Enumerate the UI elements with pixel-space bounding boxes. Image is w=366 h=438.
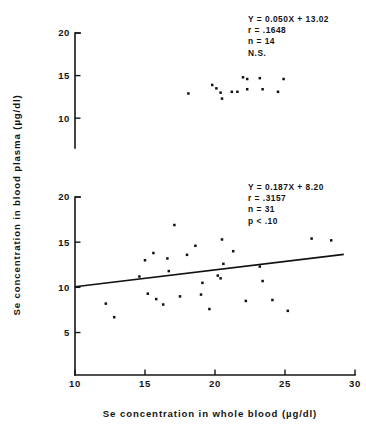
lower-y-tick-label: 20 [58, 191, 70, 202]
lower-data-point [173, 224, 176, 227]
upper-stats-annotation-line: r = .1648 [248, 25, 286, 35]
y-axis-title: Se concentration in blood plasma (µg/dl) [11, 94, 22, 315]
lower-data-point [166, 257, 169, 260]
lower-data-point [330, 239, 333, 242]
lower-panel: 5101520Y = 0.187X + 8.20r = .3157n = 31p… [58, 182, 344, 375]
lower-data-point [152, 252, 155, 255]
lower-data-point [271, 299, 274, 302]
lower-data-point [200, 293, 203, 296]
lower-y-tick-label: 5 [64, 327, 70, 338]
upper-data-point [261, 88, 264, 91]
lower-data-point [147, 292, 150, 295]
x-tick-label: 30 [349, 378, 361, 389]
x-axis-title: Se concentration in whole blood (µg/dl) [103, 408, 317, 419]
upper-data-point [282, 78, 285, 81]
upper-y-tick-label: 15 [58, 70, 70, 81]
x-tick-label: 15 [139, 378, 151, 389]
x-tick-label: 25 [279, 378, 291, 389]
upper-data-point [187, 92, 190, 95]
lower-data-point [259, 265, 262, 268]
lower-data-point [201, 282, 204, 285]
upper-data-point [219, 91, 222, 94]
lower-data-point [217, 274, 220, 277]
upper-stats-annotation-line: n = 14 [248, 36, 275, 46]
lower-regression-line [75, 254, 344, 286]
upper-panel: 101520Y = 0.050X + 13.02r = .1648n = 14N… [58, 14, 329, 148]
lower-data-point [155, 298, 158, 301]
lower-data-point [144, 259, 147, 262]
lower-stats-annotation-line: p < .10 [248, 216, 278, 226]
x-tick-label: 20 [209, 378, 221, 389]
lower-data-point [186, 254, 189, 257]
lower-data-point [221, 238, 224, 241]
figure-container: 101520Y = 0.050X + 13.02r = .1648n = 14N… [0, 0, 366, 438]
lower-data-point [162, 303, 165, 306]
upper-stats-annotation-line: Y = 0.050X + 13.02 [248, 14, 329, 24]
lower-stats-annotation-line: r = .3157 [248, 193, 286, 203]
axis-titles: Se concentration in whole blood (µg/dl)S… [11, 94, 317, 419]
lower-data-point [261, 280, 264, 283]
lower-data-point [219, 277, 222, 280]
upper-data-point [231, 91, 234, 94]
upper-data-point [246, 78, 249, 81]
upper-data-point [215, 87, 218, 90]
upper-data-point [221, 97, 224, 100]
lower-data-point [113, 316, 116, 319]
upper-y-tick-label: 20 [58, 27, 70, 38]
lower-data-point [194, 245, 197, 248]
lower-data-point [232, 250, 235, 253]
upper-data-point [246, 88, 249, 91]
lower-data-point [245, 300, 248, 303]
lower-data-point [168, 270, 171, 273]
upper-data-point [236, 91, 239, 94]
upper-data-point [211, 84, 214, 87]
lower-data-point [208, 308, 211, 311]
lower-data-point [105, 302, 108, 305]
lower-stats-annotation-line: Y = 0.187X + 8.20 [248, 182, 324, 192]
upper-data-point [277, 91, 280, 94]
lower-y-tick-label: 10 [58, 282, 70, 293]
shared-x-axis: 1015202530 [69, 370, 361, 390]
lower-data-point [287, 310, 290, 313]
lower-data-point [310, 237, 313, 240]
upper-stats-annotation-line: N.S. [248, 48, 266, 58]
lower-data-point [138, 275, 141, 278]
upper-y-tick-label: 10 [58, 113, 70, 124]
lower-y-tick-label: 15 [58, 237, 70, 248]
lower-data-point [222, 263, 225, 266]
lower-stats-annotation-line: n = 31 [248, 204, 275, 214]
upper-data-point [259, 77, 262, 80]
x-tick-label: 10 [69, 378, 81, 389]
scatter-plot-figure: 101520Y = 0.050X + 13.02r = .1648n = 14N… [0, 0, 366, 438]
lower-data-point [179, 295, 182, 298]
upper-data-point [242, 76, 245, 79]
